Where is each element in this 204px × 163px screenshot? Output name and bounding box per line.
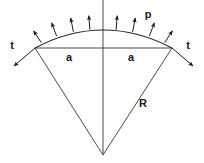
pressure-arrow-6 xyxy=(133,18,136,32)
pressure-arrow-7 xyxy=(149,23,154,36)
tension-label-left: t xyxy=(10,39,14,51)
pressure-arrow-2 xyxy=(52,23,57,36)
tension-label-right: t xyxy=(186,39,190,51)
arc-pressure-diagram: p t t a a R xyxy=(0,0,204,163)
pressure-arrow-4 xyxy=(89,16,90,30)
pressure-label: p xyxy=(145,8,152,20)
tangent-arrow-left xyxy=(14,48,35,66)
pressure-arrow-8 xyxy=(165,31,173,43)
diagram-root: p t t a a R xyxy=(0,0,204,163)
half-chord-label-left: a xyxy=(66,51,73,63)
pressure-arrow-1 xyxy=(34,31,42,43)
pressure-arrow-5 xyxy=(116,16,117,30)
tangent-arrow-right xyxy=(172,48,193,66)
pressure-arrow-3 xyxy=(71,18,74,32)
radius-line-right xyxy=(103,48,172,155)
radius-label: R xyxy=(139,97,147,109)
half-chord-label-right: a xyxy=(128,51,135,63)
radius-line-left xyxy=(35,48,103,155)
